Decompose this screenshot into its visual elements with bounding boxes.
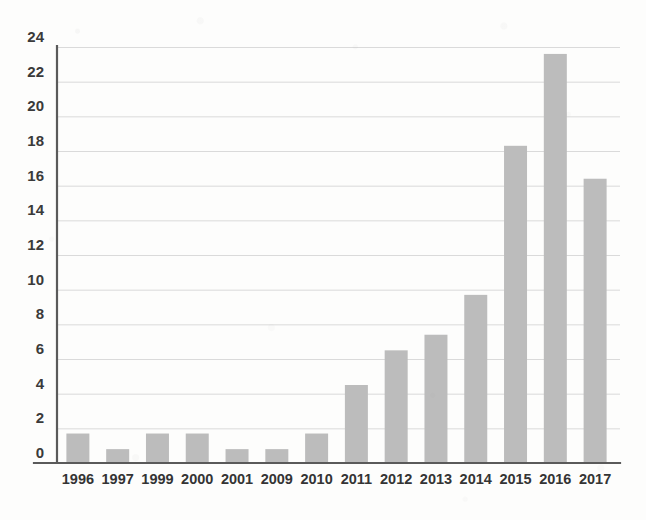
bar xyxy=(305,434,328,463)
y-tick-label: 12 xyxy=(27,236,44,253)
y-tick-label: 6 xyxy=(36,340,44,357)
x-tick-label: 1996 xyxy=(62,471,94,487)
x-tick-label: 2009 xyxy=(261,471,293,487)
bar xyxy=(385,350,408,463)
bars-series xyxy=(66,54,606,463)
bar xyxy=(106,449,129,463)
x-tick-label: 1997 xyxy=(102,471,134,487)
bar xyxy=(464,295,487,463)
y-tick-label: 14 xyxy=(27,201,44,218)
y-tick-label: 2 xyxy=(36,409,44,426)
x-tick-label: 2010 xyxy=(300,471,332,487)
chart-plot-area: 024681012141618202224 199619971999200020… xyxy=(0,0,646,520)
gridlines xyxy=(57,48,620,429)
bar xyxy=(504,146,527,463)
x-tick-label: 2011 xyxy=(341,471,372,487)
x-tick-label: 2000 xyxy=(181,471,213,487)
y-tick-label: 0 xyxy=(36,444,44,461)
y-tick-label: 22 xyxy=(27,63,44,80)
y-tick-label: 4 xyxy=(36,375,45,392)
bar xyxy=(146,434,169,463)
y-tick-label: 8 xyxy=(36,305,44,322)
y-tick-label: 24 xyxy=(27,28,44,45)
bar xyxy=(424,335,447,463)
bar xyxy=(544,54,567,463)
x-tick-label: 2013 xyxy=(420,471,452,487)
x-tick-label: 2001 xyxy=(221,471,253,487)
x-tick-label: 2014 xyxy=(460,471,492,487)
bar xyxy=(226,449,249,463)
y-tick-label: 20 xyxy=(27,97,44,114)
y-tick-label: 10 xyxy=(27,271,44,288)
bar xyxy=(345,385,368,463)
x-tick-label: 1999 xyxy=(141,471,173,487)
y-tick-label: 18 xyxy=(27,132,44,149)
bar-chart: 024681012141618202224 199619971999200020… xyxy=(0,0,646,520)
bar xyxy=(186,434,209,463)
bar xyxy=(66,434,89,463)
x-tick-label: 2012 xyxy=(380,471,412,487)
y-tick-label: 16 xyxy=(27,167,44,184)
x-tick-label: 2015 xyxy=(499,471,531,487)
axis-lines xyxy=(34,46,620,463)
x-axis-tick-labels: 1996199719992000200120092010201120122013… xyxy=(62,471,611,487)
bar xyxy=(265,449,288,463)
x-tick-label: 2017 xyxy=(579,471,611,487)
y-axis-tick-labels: 024681012141618202224 xyxy=(27,28,44,461)
bar xyxy=(584,179,607,463)
x-tick-label: 2016 xyxy=(539,471,571,487)
